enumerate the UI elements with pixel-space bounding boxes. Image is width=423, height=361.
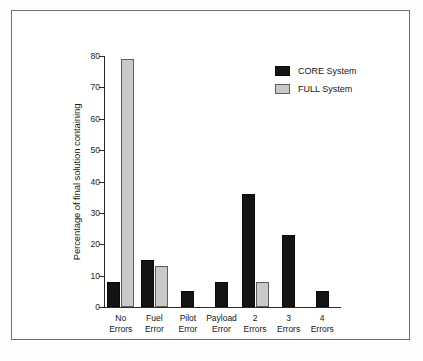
- y-axis-tick-label: 30: [91, 209, 100, 218]
- y-axis-tick-label: 80: [91, 52, 100, 61]
- bar-core-system: [282, 235, 295, 307]
- figure-canvas: Percentage of final solution containing …: [0, 0, 423, 361]
- legend-label: FULL System: [298, 84, 352, 94]
- bar-core-system: [107, 282, 120, 307]
- chart-frame: Percentage of final solution containing …: [11, 10, 410, 340]
- y-axis-tick-label: 60: [91, 115, 100, 124]
- x-axis-category-label: 4 Errors: [297, 313, 347, 334]
- bar-core-system: [215, 282, 228, 307]
- y-axis-tick-label: 0: [95, 303, 100, 312]
- bar-full-system: [155, 266, 168, 307]
- x-axis-line: [104, 307, 341, 308]
- y-axis-tick-label: 40: [91, 177, 100, 186]
- legend-label: CORE System: [298, 66, 357, 76]
- y-axis-title: Percentage of final solution containing: [70, 56, 84, 308]
- bar-full-system: [121, 59, 134, 307]
- y-axis-tick-label: 50: [91, 146, 100, 155]
- legend-item: FULL System: [275, 81, 395, 96]
- y-axis-tick-label: 20: [91, 240, 100, 249]
- bar-full-system: [256, 282, 269, 307]
- bar-core-system: [242, 194, 255, 307]
- legend-item: CORE System: [275, 63, 395, 78]
- bar-core-system: [181, 291, 194, 307]
- legend-swatch-core: [275, 66, 290, 76]
- y-axis-tick-label: 10: [91, 271, 100, 280]
- chart-legend: CORE SystemFULL System: [275, 63, 395, 99]
- bar-core-system: [316, 291, 329, 307]
- bar-core-system: [141, 260, 154, 307]
- y-axis-tick-label: 70: [91, 83, 100, 92]
- legend-swatch-full: [275, 84, 290, 94]
